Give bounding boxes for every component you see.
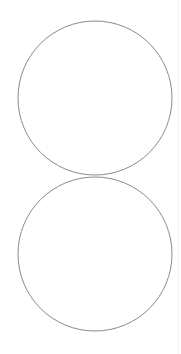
right-edge-divider bbox=[178, 0, 179, 354]
lower-circle bbox=[18, 177, 172, 331]
diagram-canvas bbox=[0, 0, 181, 354]
circles-svg bbox=[0, 0, 181, 354]
upper-circle bbox=[18, 21, 172, 175]
